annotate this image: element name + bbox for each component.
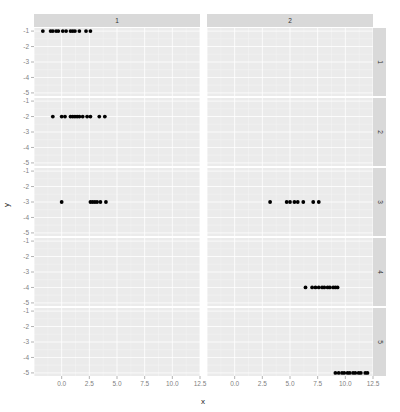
data-point <box>317 200 321 204</box>
data-point <box>77 29 81 33</box>
facet-panel <box>207 28 373 96</box>
row-strip: 1 <box>373 28 386 96</box>
row-strip-label: 3 <box>377 200 384 204</box>
y-tick-label: -1 <box>23 167 29 174</box>
x-tick-label: 0.0 <box>57 380 66 387</box>
data-point <box>288 200 292 204</box>
y-tick-label: -4 <box>23 144 29 151</box>
data-point <box>60 200 64 204</box>
data-point <box>51 115 55 119</box>
data-point <box>322 286 326 290</box>
x-tick-label: 7.5 <box>313 380 322 387</box>
data-point <box>103 115 107 119</box>
facet-panel <box>207 238 373 306</box>
y-tick-label: -2 <box>23 183 29 190</box>
data-point <box>348 371 352 375</box>
y-tick-label: -5 <box>23 229 29 236</box>
y-tick-label: -2 <box>23 113 29 120</box>
column-strip: 1 <box>34 14 200 27</box>
data-point <box>342 371 346 375</box>
data-point <box>60 115 64 119</box>
data-point <box>296 200 300 204</box>
faceted-scatter-chart: 1234512 -1-2-3-4-5-1-2-3-4-5-1-2-3-4-5-1… <box>0 0 400 412</box>
y-tick-label: -2 <box>23 43 29 50</box>
y-tick-label: -3 <box>23 198 29 205</box>
facet-panel <box>207 98 373 166</box>
row-strip: 5 <box>373 308 386 376</box>
y-tick-label: -1 <box>23 27 29 34</box>
y-tick-label: -3 <box>23 268 29 275</box>
data-point <box>77 115 81 119</box>
data-point <box>63 115 67 119</box>
x-tick-label: 0.0 <box>230 380 239 387</box>
data-point <box>285 200 289 204</box>
data-point <box>56 29 60 33</box>
data-point <box>336 286 340 290</box>
data-point <box>333 371 337 375</box>
y-tick-label: -3 <box>23 58 29 65</box>
data-point <box>85 115 89 119</box>
data-point <box>89 115 93 119</box>
row-strip-label: 2 <box>377 130 384 134</box>
row-strip: 4 <box>373 238 386 306</box>
facet-panel <box>34 98 200 166</box>
row-strip-label: 4 <box>377 270 384 274</box>
data-point <box>301 200 305 204</box>
data-point <box>328 286 332 290</box>
data-point <box>51 29 55 33</box>
y-tick-label: -1 <box>23 97 29 104</box>
data-point <box>353 371 357 375</box>
data-point <box>337 371 341 375</box>
y-tick-label: -4 <box>23 74 29 81</box>
data-point <box>314 286 318 290</box>
facet-panel <box>34 238 200 306</box>
y-tick-label: -3 <box>23 128 29 135</box>
facet-panel <box>34 28 200 96</box>
x-tick-label: 5.0 <box>112 380 121 387</box>
column-strip-label: 1 <box>115 17 119 24</box>
data-point <box>95 200 99 204</box>
data-point <box>310 286 314 290</box>
y-tick-label: -1 <box>23 237 29 244</box>
data-point <box>293 200 297 204</box>
row-strip: 2 <box>373 98 386 166</box>
facet-panel <box>207 308 373 376</box>
data-point <box>89 29 93 33</box>
data-point <box>84 29 88 33</box>
y-tick-label: -5 <box>23 369 29 376</box>
data-point <box>61 29 65 33</box>
y-tick-label: -2 <box>23 323 29 330</box>
data-point <box>359 371 363 375</box>
facet-panel <box>207 168 373 236</box>
data-point <box>97 115 101 119</box>
data-point <box>304 286 308 290</box>
data-point <box>41 29 45 33</box>
column-strip: 2 <box>207 14 373 27</box>
data-point <box>99 200 103 204</box>
x-tick-label: 10.0 <box>166 380 179 387</box>
data-point <box>64 29 68 33</box>
row-strip: 3 <box>373 168 386 236</box>
row-strip-label: 1 <box>377 60 384 64</box>
x-tick-label: 2.5 <box>85 380 94 387</box>
y-tick-label: -5 <box>23 299 29 306</box>
x-tick-label: 5.0 <box>285 380 294 387</box>
data-point <box>268 200 272 204</box>
data-point <box>317 286 321 290</box>
y-tick-label: -4 <box>23 214 29 221</box>
column-strip-label: 2 <box>288 17 292 24</box>
x-tick-label: 12.5 <box>367 380 380 387</box>
y-tick-label: -5 <box>23 89 29 96</box>
y-tick-label: -4 <box>23 284 29 291</box>
y-tick-label: -4 <box>23 354 29 361</box>
x-tick-label: 2.5 <box>258 380 267 387</box>
x-tick-label: 12.5 <box>194 380 207 387</box>
x-tick-label: 7.5 <box>140 380 149 387</box>
y-tick-label: -3 <box>23 338 29 345</box>
row-strip-label: 5 <box>377 340 384 344</box>
x-tick-label: 10.0 <box>339 380 352 387</box>
y-tick-label: -5 <box>23 159 29 166</box>
y-axis-title: y <box>2 203 11 207</box>
facet-panel <box>34 308 200 376</box>
data-point <box>311 200 315 204</box>
